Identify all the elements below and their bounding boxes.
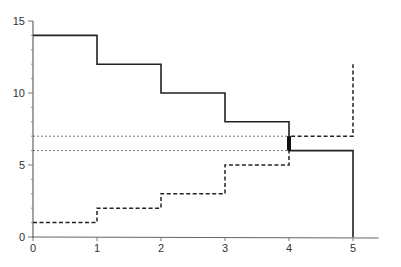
x-tick-label: 4 <box>286 242 292 254</box>
y-tick-label: 5 <box>19 159 25 171</box>
x-tick-label: 1 <box>94 242 100 254</box>
y-tick-label: 0 <box>19 231 25 243</box>
x-tick-label: 5 <box>350 242 356 254</box>
x-axis <box>32 237 379 238</box>
x-tick-label: 3 <box>222 242 228 254</box>
axes: 051015012345 <box>13 15 379 254</box>
y-tick-label: 15 <box>13 15 25 27</box>
y-tick-label: 10 <box>13 87 25 99</box>
x-tick-label: 0 <box>30 242 36 254</box>
step-chart: 051015012345 <box>0 0 401 267</box>
x-tick-label: 2 <box>158 242 164 254</box>
dashed-series-line <box>33 64 353 222</box>
reference-lines <box>33 136 289 150</box>
